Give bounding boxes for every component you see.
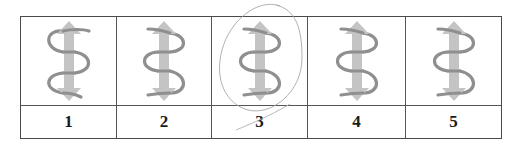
options-table: 1 2 3 4 5 <box>20 16 502 139</box>
option-3-label: 3 <box>212 106 308 138</box>
option-1-image-cell[interactable] <box>21 17 117 106</box>
option-2-image-cell[interactable] <box>117 17 212 106</box>
option-2-label: 2 <box>117 106 212 138</box>
option-4-image-cell[interactable] <box>308 17 406 106</box>
option-3-image-cell[interactable] <box>212 17 308 106</box>
option-5-label: 5 <box>406 106 501 138</box>
double-arrow-with-coil-icon <box>327 19 387 103</box>
double-arrow-with-coil-icon <box>39 19 99 103</box>
option-5-image-cell[interactable] <box>406 17 501 106</box>
option-4-label: 4 <box>308 106 406 138</box>
double-arrow-with-coil-icon <box>230 19 290 103</box>
option-1-label: 1 <box>21 106 117 138</box>
double-arrow-with-coil-icon <box>424 19 484 103</box>
double-arrow-with-coil-icon <box>134 19 194 103</box>
